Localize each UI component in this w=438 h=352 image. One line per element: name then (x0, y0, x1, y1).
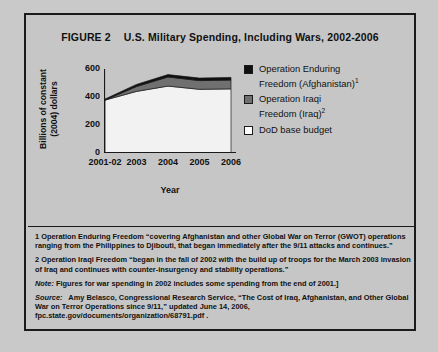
source-text: Amy Belasco, Congressional Research Serv… (35, 293, 409, 321)
legend-superscript-2: 2 (322, 107, 326, 114)
y-axis-label: Billions of constant (2004) dollars (38, 61, 60, 157)
y-axis-tick-labels: 600 400 200 0 (70, 69, 100, 153)
legend-item-oif: Operation Iraqi Freedom (Iraq)2 (244, 93, 416, 119)
legend-label-oef-line1: Operation Enduring (259, 63, 340, 74)
legend-swatch-oef (244, 65, 253, 74)
x-axis-label: Year (104, 185, 236, 195)
legend-label-oif-line2: Freedom (Iraq)2 (259, 105, 325, 120)
footnote-1: 1 Operation Enduring Freedom “covering A… (35, 232, 411, 251)
legend-label-oif-line2-text: Freedom (Iraq) (259, 108, 322, 119)
y-tick-0: 0 (74, 147, 100, 157)
figure-frame: FIGURE 2U.S. Military Spending, Includin… (24, 13, 416, 331)
y-tick-400: 400 (74, 91, 100, 101)
x-tick-2004: 2004 (158, 157, 178, 167)
source-label: Source: (35, 293, 63, 302)
x-tick-2003: 2003 (126, 157, 146, 167)
series-band (105, 86, 231, 153)
x-tick-2006: 2006 (221, 157, 241, 167)
chart-legend: Operation Enduring Freedom (Afghanistan)… (244, 63, 416, 139)
figure-notes: 1 Operation Enduring Freedom “covering A… (35, 232, 411, 321)
legend-item-oef: Operation Enduring Freedom (Afghanistan)… (244, 63, 416, 89)
legend-label-dod: DoD base budget (259, 124, 332, 136)
figure-title: FIGURE 2U.S. Military Spending, Includin… (26, 31, 414, 43)
legend-label-oef-line2-text: Freedom (Afghanistan) (259, 78, 355, 89)
series-group (105, 75, 231, 153)
y-tick-600: 600 (74, 63, 100, 73)
legend-label-oif-line1: Operation Iraqi (259, 93, 321, 104)
figure-number: FIGURE 2 (61, 31, 111, 43)
stacked-area-plot (104, 69, 236, 153)
y-axis-label-text: Billions of constant (2004) dollars (38, 69, 59, 149)
y-tick-200: 200 (74, 119, 100, 129)
legend-label-oef: Operation Enduring Freedom (Afghanistan)… (259, 63, 359, 89)
footnote-2: 2 Operation Iraqi Freedom “began in the … (35, 255, 411, 274)
legend-item-dod: DoD base budget (244, 124, 416, 136)
figure-title-text: U.S. Military Spending, Including Wars, … (124, 31, 379, 43)
note-line: Note: Figures for war spending in 2002 i… (35, 279, 411, 288)
legend-label-dod-line1: DoD base budget (259, 124, 332, 135)
y-axis-label-wrap: Billions of constant (2004) dollars (44, 69, 56, 153)
x-tick-2001-02: 2001-02 (88, 157, 121, 167)
legend-label-oef-line2: Freedom (Afghanistan)1 (259, 75, 359, 90)
note-label: Note: (35, 279, 54, 288)
legend-swatch-dod (244, 126, 253, 135)
section-divider (28, 226, 416, 227)
legend-superscript-1: 1 (355, 77, 359, 84)
x-tick-2005: 2005 (189, 157, 209, 167)
source-line: Source: Amy Belasco, Congressional Resea… (35, 293, 411, 321)
legend-label-oif: Operation Iraqi Freedom (Iraq)2 (259, 93, 325, 119)
x-axis-tick-labels: 2001-022003200420052006 (104, 157, 236, 171)
plot-area: 2001-022003200420052006 (104, 69, 236, 153)
legend-swatch-oif (244, 95, 253, 104)
note-text: Figures for war spending in 2002 include… (56, 279, 339, 288)
